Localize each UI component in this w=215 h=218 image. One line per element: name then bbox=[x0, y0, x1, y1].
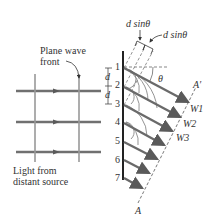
diffraction-grating-diagram: Plane wave front Light from distant sour… bbox=[0, 0, 215, 218]
dsin-label-top: d sinθ bbox=[126, 18, 150, 29]
wavefront-line-a-a-prime bbox=[138, 87, 196, 203]
slit-label: 5 bbox=[115, 135, 120, 146]
slit-label: 1 bbox=[115, 61, 120, 72]
ray-arrowhead-icon bbox=[53, 150, 60, 155]
pointer-arrow-icon bbox=[66, 61, 79, 78]
a-label: A bbox=[134, 205, 142, 216]
ray-arrowhead-icon bbox=[53, 120, 60, 125]
light-source-label-2: distant source bbox=[13, 176, 69, 187]
diffracted-ray-4 bbox=[124, 123, 164, 145]
diffracted-ray-6 bbox=[124, 160, 149, 173]
theta-arc bbox=[150, 67, 153, 81]
d-label-upper: d bbox=[105, 71, 111, 82]
dsin-bracket bbox=[135, 41, 153, 54]
slit-label: 6 bbox=[115, 154, 120, 165]
theta-label: θ bbox=[158, 73, 163, 84]
slit-labels: 1 2 3 4 5 6 7 bbox=[115, 61, 120, 183]
ray-arrowhead-icon bbox=[53, 89, 60, 94]
plane-wave-front-label-2: front bbox=[40, 56, 60, 67]
slit-spacing-bracket: d d bbox=[105, 68, 112, 104]
plane-wave-front-label: Plane wave bbox=[40, 45, 86, 56]
incoming-plane-waves bbox=[16, 74, 101, 162]
diffracted-ray-5 bbox=[124, 142, 157, 159]
slit-label: 2 bbox=[115, 79, 120, 90]
d-label-lower: d bbox=[105, 89, 111, 100]
slit-label: 4 bbox=[115, 116, 120, 127]
w1-label: W1 bbox=[190, 103, 203, 114]
slit-label: 7 bbox=[115, 172, 120, 183]
a-prime-label: A′ bbox=[192, 79, 202, 90]
slit-label: 3 bbox=[115, 98, 120, 109]
light-source-label: Light from bbox=[13, 165, 57, 176]
dsin-label-right: d sinθ bbox=[163, 29, 187, 40]
diffracted-ray-7 bbox=[124, 178, 142, 188]
w2-label: W2 bbox=[183, 118, 196, 129]
pointer-arrow-icon bbox=[150, 35, 162, 42]
w3-label: W3 bbox=[176, 132, 189, 143]
